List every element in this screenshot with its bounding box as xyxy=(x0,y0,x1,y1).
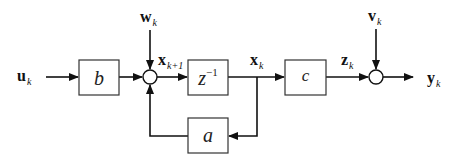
summing-junction-1 xyxy=(143,70,157,84)
block-delay-symbol: z xyxy=(198,67,206,89)
label-v-symbol: v xyxy=(368,7,376,24)
label-z-symbol: z xyxy=(341,51,348,68)
label-x-subscript: k xyxy=(259,60,263,71)
feedback-a-to-sum1 xyxy=(150,85,188,136)
label-u: uk xyxy=(17,68,31,87)
diagram-canvas xyxy=(0,0,459,161)
label-w-subscript: k xyxy=(153,17,157,28)
label-z: zk xyxy=(341,52,354,71)
block-b-label: b xyxy=(79,67,119,90)
label-u-symbol: u xyxy=(17,67,26,84)
label-x-next-subscript: k+1 xyxy=(167,60,183,71)
block-delay-exponent: −1 xyxy=(206,66,218,78)
label-w: wk xyxy=(140,9,157,28)
block-a-label: a xyxy=(188,124,228,147)
summing-junction-2 xyxy=(369,70,383,84)
feedback-to-a xyxy=(229,77,257,136)
block-delay-label: z−1 xyxy=(188,66,228,90)
label-x: xk xyxy=(250,52,263,71)
label-v-subscript: k xyxy=(377,16,381,27)
label-x-next-symbol: x xyxy=(158,51,166,68)
label-y-subscript: k xyxy=(436,78,440,89)
label-x-next: xk+1 xyxy=(158,52,183,71)
label-x-symbol: x xyxy=(250,51,258,68)
label-w-symbol: w xyxy=(140,8,152,25)
label-u-subscript: k xyxy=(27,76,31,87)
label-v: vk xyxy=(368,8,381,27)
label-y-symbol: y xyxy=(427,69,435,86)
block-c-label: c xyxy=(285,66,326,86)
label-y: yk xyxy=(427,70,440,89)
label-z-subscript: k xyxy=(349,60,353,71)
